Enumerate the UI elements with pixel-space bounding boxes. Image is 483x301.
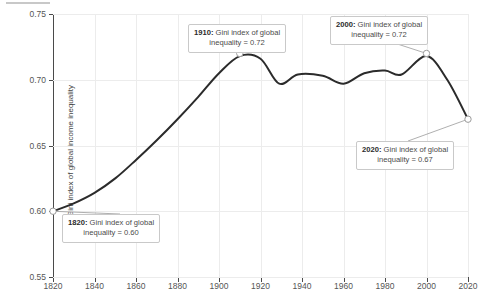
annotation-2000-year: 2000: [336,20,355,29]
data-point-marker-2020 [465,116,471,122]
x-tick-mark [385,278,386,282]
chart-container: Gini index of global income inequality 0… [0,0,483,301]
x-tick-mark [344,278,345,282]
x-tick-label: 1940 [293,281,312,291]
x-tick-label: 2000 [417,281,436,291]
x-tick-label: 2020 [459,281,478,291]
x-tick-mark [261,278,262,282]
x-tick-label: 1860 [127,281,146,291]
x-tick-label: 1960 [334,281,353,291]
annotation-1910-line1: Gini index of global [213,28,280,37]
x-tick-label: 1920 [251,281,270,291]
x-tick-mark [468,278,469,282]
annotation-2020-line2: inequality = 0.67 [377,155,433,164]
y-tick-label: 0.70 [29,75,46,85]
x-tick-label: 1980 [376,281,395,291]
annotation-2000-line1: Gini index of global [355,20,422,29]
annotation-2020-year: 2020: [362,145,381,154]
data-point-markers [50,50,471,214]
annotation-1820: 1820: Gini index of global inequality = … [62,214,160,243]
x-tick-label: 1880 [168,281,187,291]
x-tick-mark [427,278,428,282]
x-tick-mark [178,278,179,282]
y-tick-label: 0.75 [29,9,46,19]
annotation-1820-line1: Gini index of global [87,218,154,227]
x-tick-mark [136,278,137,282]
annotation-1910-line2: inequality = 0.72 [209,38,265,47]
annotation-1910-year: 1910: [194,28,213,37]
series-line-gini [53,55,468,212]
y-tick-label: 0.65 [29,141,46,151]
x-tick-label: 1820 [44,281,63,291]
annotation-2020: 2020: Gini index of global inequality = … [356,141,454,170]
x-tick-mark [53,278,54,282]
top-edge-artifact [6,2,50,4]
annotation-1910: 1910: Gini index of global inequality = … [188,24,286,53]
annotation-2020-line1: Gini index of global [381,145,448,154]
x-tick-mark [219,278,220,282]
data-point-marker-2000 [423,50,429,56]
x-tick-label: 1840 [85,281,104,291]
data-point-marker-1820 [50,208,56,214]
x-tick-label: 1900 [210,281,229,291]
gridline-vertical [468,14,469,277]
x-tick-mark [302,278,303,282]
annotation-1820-line2: inequality = 0.60 [83,228,139,237]
annotation-2000-line2: inequality = 0.72 [351,30,407,39]
y-tick-label: 0.60 [29,206,46,216]
annotation-1820-year: 1820: [68,218,87,227]
leader-line-2020 [408,119,468,141]
annotation-leader-lines [53,39,468,214]
annotation-2000: 2000: Gini index of global inequality = … [330,16,428,45]
x-tick-mark [95,278,96,282]
